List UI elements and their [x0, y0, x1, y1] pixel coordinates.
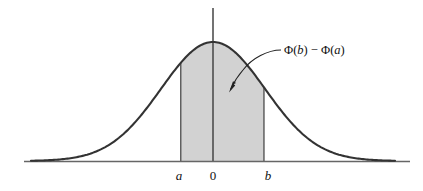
- annotation-minus: −: [308, 43, 321, 57]
- annotation-label: Φ(b) − Φ(a): [284, 43, 345, 57]
- tick-label-a: a: [176, 168, 183, 183]
- tick-label-b: b: [265, 168, 272, 183]
- annotation-phi-open-2: Φ(: [321, 43, 334, 57]
- shaded-area-region: [181, 42, 264, 161]
- tick-label-zero: 0: [210, 168, 217, 183]
- annotation-phi-open-1: Φ(: [284, 43, 297, 57]
- normal-distribution-figure: Φ(b) − Φ(a) a 0 b: [0, 0, 423, 191]
- annotation-close-2: ): [341, 43, 345, 57]
